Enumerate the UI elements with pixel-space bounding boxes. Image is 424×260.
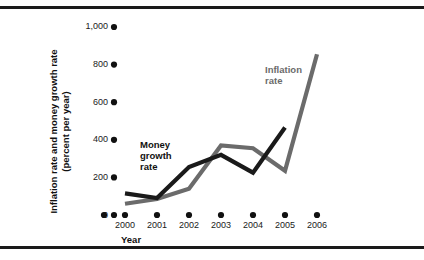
y-tick-dot-group bbox=[111, 24, 117, 218]
y-tick-dot-800 bbox=[111, 62, 117, 68]
y-tick-dot-600 bbox=[111, 99, 117, 105]
x-tick-dot-group bbox=[101, 212, 320, 218]
x-tick-dot-2000 bbox=[122, 212, 128, 218]
y-tick-dot-1000 bbox=[111, 24, 117, 30]
x-tick-dot-2005 bbox=[282, 212, 288, 218]
x-axis-origin-dot bbox=[101, 212, 107, 218]
plot-area bbox=[0, 0, 424, 260]
y-tick-dot-200 bbox=[111, 174, 117, 180]
y-tick-dot-400 bbox=[111, 137, 117, 143]
x-tick-dot-2002 bbox=[186, 212, 192, 218]
series-line-inflation-rate bbox=[125, 54, 317, 203]
x-tick-dot-2001 bbox=[154, 212, 160, 218]
x-tick-dot-2003 bbox=[218, 212, 224, 218]
y-tick-dot-0 bbox=[111, 212, 117, 218]
x-tick-dot-2006 bbox=[314, 212, 320, 218]
series-line-money-growth-rate bbox=[125, 128, 285, 199]
chart-figure: Inflation rate and money growth rate (pe… bbox=[0, 0, 424, 260]
x-tick-dot-2004 bbox=[250, 212, 256, 218]
